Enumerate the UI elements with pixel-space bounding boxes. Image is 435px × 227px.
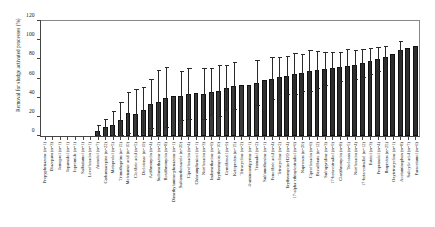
x-tick-label: Acetaminophen (n=8) xyxy=(398,142,403,182)
x-tick xyxy=(204,136,205,140)
bar-cell xyxy=(71,21,79,136)
x-label-cell: Clofibric acid (n=5) xyxy=(131,142,139,226)
x-tick xyxy=(347,136,348,140)
x-tick-label: Chloramphenicol (n=1) xyxy=(193,142,198,184)
x-tick xyxy=(120,136,121,140)
error-bar xyxy=(98,125,99,136)
bar-cell xyxy=(283,21,291,136)
x-tick xyxy=(181,136,182,140)
x-label-cell: Ciprofloxacin (n=4) xyxy=(184,142,192,226)
x-tick-label: 17-beta-estradiol (n=9) xyxy=(330,142,335,184)
error-bar xyxy=(105,119,106,136)
y-tick-label: 60 xyxy=(29,70,35,76)
x-label-cell: Iomeprol (n=1) xyxy=(55,142,63,226)
bar-cell xyxy=(275,21,283,136)
x-label-cell: Erythromycin-H2O (n=4) xyxy=(283,142,291,226)
x-tick xyxy=(332,136,333,140)
x-label-cell: Norfloxacin (n=4) xyxy=(351,142,359,226)
error-bar xyxy=(211,68,212,116)
error-bar xyxy=(362,49,363,78)
x-label-cell: Erythromycin (n=10) xyxy=(215,142,223,226)
x-label-cell: Diazepam (n=3) xyxy=(48,142,56,226)
x-label-cell: 17-beta-estradiol (n=12) xyxy=(359,142,367,226)
x-axis-labels: Propyphenazone (n=1)Diazepam (n=3)Iomepr… xyxy=(40,142,420,226)
x-label-cell: Propyphenazone (n=1) xyxy=(40,142,48,226)
x-tick-label: Ketoprofen (n=15) xyxy=(231,142,236,176)
error-bar xyxy=(317,51,318,89)
chart-figure: Removal for sludge activated processes (… xyxy=(0,0,435,227)
bar-cell xyxy=(49,21,57,136)
x-tick xyxy=(113,136,114,140)
x-label-cell: 4-aminoantipyrine (n=1) xyxy=(245,142,253,226)
error-bar xyxy=(151,79,152,129)
x-tick xyxy=(166,136,167,140)
x-tick xyxy=(317,136,318,140)
x-tick xyxy=(294,136,295,140)
x-tick xyxy=(83,136,84,140)
error-bar xyxy=(385,46,386,69)
x-tick-label: 17-beta-estradiol (n=12) xyxy=(360,142,365,186)
x-tick-label: Dimethylamino-phenazone (n=1) xyxy=(170,142,175,202)
bar-cell xyxy=(344,21,352,136)
error-bar xyxy=(158,70,159,133)
x-tick-label: Bezafibrate (n=12) xyxy=(315,142,320,176)
bar xyxy=(239,85,244,136)
x-tick xyxy=(45,136,46,140)
x-label-cell: Azithromycin (n=4) xyxy=(146,142,154,226)
x-tick-label: 17-alpha-ethinylestradiol (n=6) xyxy=(292,142,297,198)
x-tick-label: Ciprofloxacin (n=4) xyxy=(186,142,191,178)
x-label-cell: Tetracycline (n=2) xyxy=(275,142,283,226)
x-tick-label: Tramadol (n=2) xyxy=(254,142,259,171)
bar-series xyxy=(41,21,419,136)
x-label-cell: Carbamazepine (n=22) xyxy=(101,142,109,226)
bar-cell xyxy=(215,21,223,136)
error-bar xyxy=(302,54,303,92)
bar xyxy=(247,85,252,136)
y-tick-label: 100 xyxy=(26,31,34,37)
error-bar xyxy=(188,68,189,120)
error-bar xyxy=(355,50,356,81)
bar-cell xyxy=(230,21,238,136)
x-label-cell: Chloramphenicol (n=1) xyxy=(192,142,200,226)
x-label-cell: Sulfamethazine (n=2) xyxy=(154,142,162,226)
x-label-cell: Metoprolol (n=5) xyxy=(108,142,116,226)
bar-cell xyxy=(245,21,253,136)
bar-cell xyxy=(336,21,344,136)
x-tick-label: Salicylic acid (n=7) xyxy=(406,142,411,178)
x-tick xyxy=(98,136,99,140)
error-bar xyxy=(143,87,144,133)
error-bar xyxy=(234,62,235,110)
x-tick xyxy=(287,136,288,140)
plot-area: 020406080100120 xyxy=(40,20,420,137)
error-bar xyxy=(226,65,227,111)
bar-cell xyxy=(147,21,155,136)
x-label-cell: Roxithromycin (n=8) xyxy=(162,142,170,226)
x-label-cell: Tramadol (n=2) xyxy=(253,142,261,226)
y-tick-label: 80 xyxy=(29,50,35,56)
bar-cell xyxy=(109,21,117,136)
x-label-cell: Iopamidol (n=1) xyxy=(63,142,71,226)
x-tick xyxy=(385,136,386,140)
x-label-cell: Triclosan (n=5) xyxy=(344,142,352,226)
x-tick xyxy=(211,136,212,140)
x-label-cell: Naproxen (n=20) xyxy=(298,142,306,226)
bar-cell xyxy=(177,21,185,136)
x-tick-label: Ciprofloxacin (n=6) xyxy=(307,142,312,178)
bar-cell xyxy=(328,21,336,136)
x-tick-label: Indomethacine (n=6) xyxy=(208,142,213,180)
x-tick-label: Oxytetracycline (n=1) xyxy=(391,142,396,182)
x-label-cell: Ibuprofen (n=25) xyxy=(382,142,390,226)
x-tick-label: Naproxen (n=20) xyxy=(299,142,304,173)
x-tick-label: Roxithromycin (n=8) xyxy=(163,142,168,180)
x-tick-label: Iopromide (n=1) xyxy=(72,142,77,172)
bar-cell xyxy=(268,21,276,136)
x-tick xyxy=(67,136,68,140)
bar xyxy=(194,93,199,136)
error-bar xyxy=(378,47,379,72)
bar xyxy=(390,54,395,136)
x-tick-label: Norfloxacin (n=3) xyxy=(201,142,206,175)
x-label-cell: Atenolol (n=7) xyxy=(93,142,101,226)
x-tick xyxy=(370,136,371,140)
y-tick-label: 40 xyxy=(29,89,35,95)
bar-cell xyxy=(185,21,193,136)
